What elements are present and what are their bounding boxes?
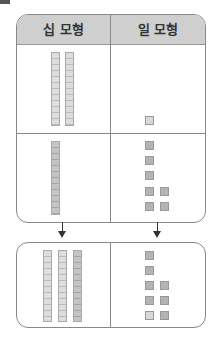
- column-divider: [110, 243, 111, 327]
- tens-rod-icon: [51, 52, 60, 126]
- ones-cube-icon: [145, 266, 154, 275]
- tens-rod-icon: [65, 52, 74, 126]
- ones-cube-icon: [160, 296, 169, 305]
- tens-header: 십 모형: [17, 15, 110, 44]
- ones-cube-icon: [145, 296, 154, 305]
- ones-header: 일 모형: [111, 15, 205, 44]
- ones-cube-icon: [145, 171, 154, 180]
- down-arrow-icon: [153, 231, 161, 238]
- ones-cube-icon: [145, 156, 154, 165]
- ones-cube-icon: [145, 281, 154, 290]
- ones-cube-icon: [145, 116, 154, 125]
- ones-cube-icon: [160, 187, 169, 196]
- row-divider: [17, 133, 205, 134]
- ones-cube-icon: [160, 281, 169, 290]
- tens-rod-icon: [43, 250, 52, 322]
- tens-rod-icon: [58, 250, 67, 322]
- ones-cube-icon: [145, 187, 154, 196]
- ones-cube-icon: [160, 311, 169, 320]
- down-arrow-icon: [58, 231, 66, 238]
- tens-rod-icon: [51, 141, 60, 215]
- corner-mark: [0, 0, 10, 4]
- result-box: [16, 242, 206, 328]
- ones-cube-icon: [160, 202, 169, 211]
- table-header: 십 모형 일 모형: [17, 15, 205, 45]
- ones-cube-icon: [145, 251, 154, 260]
- column-divider: [110, 15, 111, 222]
- tens-rod-icon: [73, 250, 82, 322]
- base-ten-table: 십 모형 일 모형: [16, 14, 206, 223]
- ones-cube-icon: [145, 311, 154, 320]
- ones-cube-icon: [145, 141, 154, 150]
- ones-cube-icon: [145, 202, 154, 211]
